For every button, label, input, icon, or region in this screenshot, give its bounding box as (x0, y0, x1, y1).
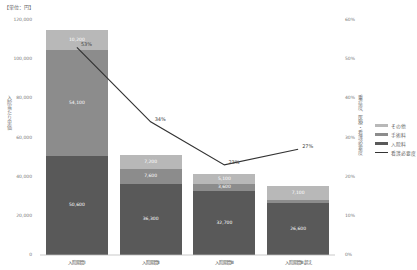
line-overlay (0, 0, 417, 270)
legend-item-surgery: 手術料 (375, 130, 416, 139)
legend-item-admission: 入院料 (375, 139, 416, 148)
line-value-label: 53% (81, 41, 92, 47)
legend-item-nursing-need: 看護必要度 (375, 148, 416, 157)
swatch-icon (375, 124, 388, 127)
line-swatch-icon (375, 152, 388, 153)
line-value-label: 27% (302, 143, 313, 149)
legend-item-other: その他 (375, 121, 416, 130)
swatch-icon (375, 133, 388, 136)
line-value-label: 23% (228, 159, 239, 165)
legend: その他 手術料 入院料 看護必要度 (375, 121, 416, 157)
swatch-icon (375, 142, 388, 145)
line-value-label: 34% (155, 116, 166, 122)
